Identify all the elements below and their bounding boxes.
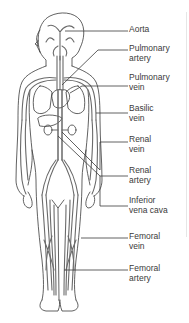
circulatory-diagram: Aorta Pulmonary artery Pulmonary vein Ba… (0, 0, 189, 323)
label-femoral-vein: Femoral vein (129, 232, 160, 251)
frame-divider (186, 12, 187, 237)
leader-renal-vein (62, 132, 128, 170)
label-femoral-artery: Femoral artery (129, 264, 160, 283)
label-pulmonary-artery: Pulmonary artery (129, 44, 170, 63)
foot-right (60, 300, 78, 311)
kidney-right (68, 125, 76, 135)
inner-arm-right (86, 90, 90, 185)
leader-pulmonary-vein (70, 86, 128, 93)
hand-right (86, 192, 95, 208)
label-inferior-vena-cava: Inferior vena cava (129, 196, 168, 215)
label-renal-artery: Renal artery (129, 166, 151, 185)
leader-inferior-vena-cava (100, 176, 128, 206)
label-pulmonary-vein: Pulmonary vein (129, 73, 170, 92)
label-aorta: Aorta (129, 25, 149, 35)
label-renal-vein: Renal vein (129, 135, 151, 154)
inner-arm-left (28, 90, 32, 185)
label-basilic-vein: Basilic vein (129, 104, 154, 123)
foot-left (40, 300, 60, 311)
lung-left (33, 86, 52, 114)
hand-left (23, 192, 32, 208)
